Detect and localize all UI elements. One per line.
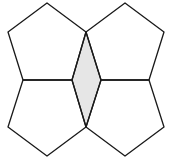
pentagon-top-left [8,3,86,80]
pentagon-bottom-right [86,80,164,156]
pentagon-top-right [86,3,164,80]
shaded-rhombus [72,32,101,127]
pentagon-bottom-left [8,80,86,156]
pentagon-diagram [0,0,169,160]
